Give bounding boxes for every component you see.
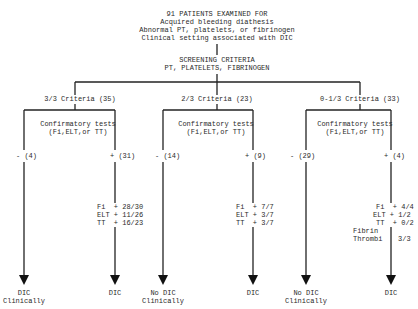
flowchart-connectors: [0, 0, 418, 309]
confirm-label: Confirmatory tests: [40, 120, 116, 128]
arrow-down-icon: [158, 275, 168, 285]
confirm-tests: (Fi,ELT,or TT): [326, 128, 385, 136]
outcome-label: Clinically: [142, 297, 184, 305]
result-row: TT + 16/23: [97, 219, 143, 227]
criteria-label: 3/3 Criteria (35): [42, 95, 117, 103]
positive-count: + (4): [384, 152, 405, 160]
header-line: Acquired bleeding diathesis: [160, 18, 273, 26]
result-row: TT + 0/2: [376, 219, 414, 227]
outcome-label: Clinically: [285, 297, 327, 305]
result-row-extra-value: 3/3: [398, 235, 411, 243]
result-row: Fi + 4/4: [376, 203, 414, 211]
result-row: TT + 3/7: [236, 219, 274, 227]
negative-count: - (29): [290, 152, 315, 160]
result-row: ELT + 3/7: [236, 211, 274, 219]
outcome-label: Clinically: [3, 297, 45, 305]
result-row: Fi + 28/30: [97, 203, 143, 211]
result-row: ELT + 11/26: [97, 211, 143, 219]
arrow-down-icon: [248, 275, 258, 285]
result-row: ELT + 1/2: [373, 211, 411, 219]
negative-count: - (14): [155, 152, 180, 160]
outcome-label: DIC: [385, 289, 398, 297]
outcome-label: DIC: [109, 289, 122, 297]
outcome-label: No DIC: [293, 289, 318, 297]
criteria-label: 0-1/3 Criteria (33): [318, 95, 402, 103]
outcome-label: No DIC: [150, 289, 175, 297]
result-row: Fi + 7/7: [236, 203, 274, 211]
screening-subtitle: PT, PLATELETS, FIBRINOGEN: [164, 64, 269, 72]
confirm-tests: (Fi,ELT,or TT): [49, 128, 108, 136]
confirm-label: Confirmatory tests: [317, 120, 393, 128]
confirm-tests: (Fi,ELT,or TT): [187, 128, 246, 136]
positive-count: + (9): [245, 152, 266, 160]
header-title: 91 PATIENTS EXAMINED FOR: [167, 10, 268, 18]
result-row-extra: Thrombi: [353, 235, 382, 243]
arrow-down-icon: [110, 275, 120, 285]
positive-count: + (31): [110, 152, 135, 160]
confirm-label: Confirmatory tests: [178, 120, 254, 128]
outcome-label: DIC: [18, 289, 31, 297]
header-line: Clinical setting associated with DIC: [141, 34, 292, 42]
outcome-label: DIC: [247, 289, 260, 297]
header-line: Abnormal PT, platelets, or fibrinogen: [139, 26, 294, 34]
screening-title: SCREENING CRITERIA: [179, 56, 255, 64]
negative-count: - (4): [16, 152, 37, 160]
arrow-down-icon: [386, 275, 396, 285]
arrow-down-icon: [301, 275, 311, 285]
criteria-label: 2/3 Criteria (23): [179, 95, 254, 103]
arrow-down-icon: [19, 275, 29, 285]
result-row-extra: Fibrin: [353, 227, 378, 235]
